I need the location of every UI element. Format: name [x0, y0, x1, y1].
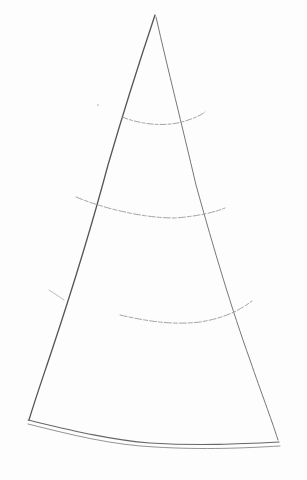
cone-left-edge [29, 15, 155, 420]
cone-sketch [0, 0, 307, 480]
guide-curve-bottom [120, 301, 252, 323]
guide-stroke-left [49, 290, 64, 300]
guide-curve-top [122, 112, 205, 124]
cone-base-double [28, 424, 280, 449]
sketch-canvas [0, 0, 307, 480]
cone-base [28, 420, 279, 445]
stray-mark [97, 104, 99, 106]
cone-right-edge [156, 17, 278, 440]
